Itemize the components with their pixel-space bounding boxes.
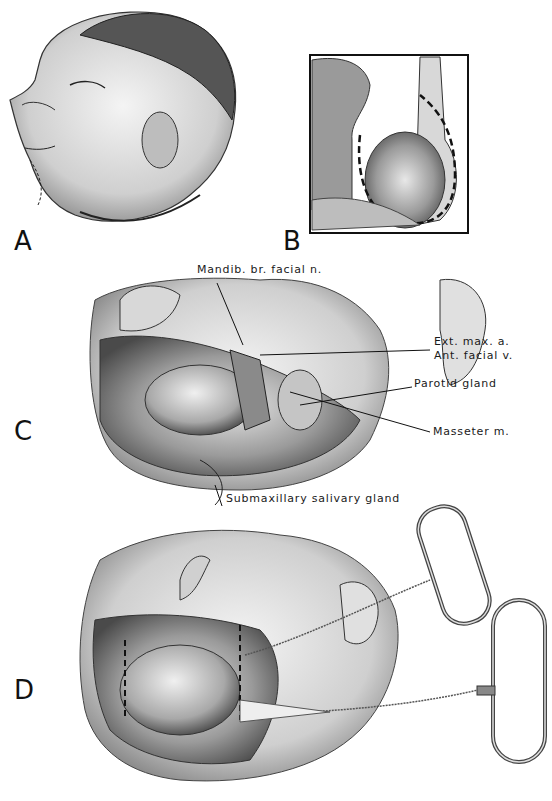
label-submaxillary-salivary-gland: Submaxillary salivary gland: [226, 492, 400, 505]
panel-label-d: D: [14, 677, 34, 703]
panel-label-b: B: [283, 228, 301, 254]
panel-label-c: C: [14, 418, 32, 444]
illustration-canvas: [0, 0, 552, 801]
panel-c-dissection-illustration: [90, 278, 486, 506]
label-anterior-facial-vein: Ant. facial v.: [434, 349, 513, 362]
label-external-maxillary-artery: Ext. max. a.: [434, 335, 510, 348]
panel-b-inset-illustration: [310, 55, 468, 233]
panel-d-retraction-illustration: [80, 501, 545, 781]
label-mandibular-branch-facial-nerve: Mandib. br. facial n.: [197, 263, 322, 276]
label-parotid-gland: Parotid gland: [414, 377, 497, 390]
panel-a-head-illustration: [10, 12, 236, 221]
label-masseter-muscle: Masseter m.: [433, 425, 510, 438]
panel-label-a: A: [14, 228, 32, 254]
